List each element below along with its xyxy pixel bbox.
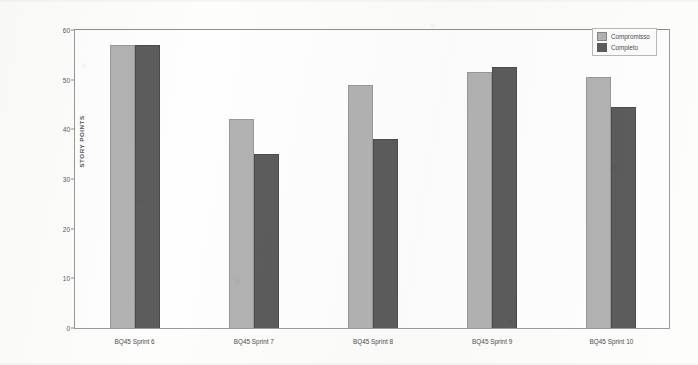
bar-group (75, 30, 194, 328)
x-axis-label: BQ45 Sprint 9 (472, 338, 512, 345)
bar-completed[interactable] (492, 67, 517, 328)
legend-item-committed: Compromisso (597, 32, 650, 41)
bar-committed[interactable] (110, 45, 135, 328)
legend-label-committed: Compromisso (611, 33, 650, 40)
x-axis-label: BQ45 Sprint 10 (590, 338, 634, 345)
bar-completed[interactable] (135, 45, 160, 328)
y-tick-label: 0 (66, 325, 70, 332)
bar-completed[interactable] (611, 107, 636, 328)
y-tick-label: 30 (63, 176, 70, 183)
bar-committed[interactable] (586, 77, 611, 328)
chart-legend: Compromisso Completo (592, 28, 657, 56)
bar-group (313, 30, 432, 328)
y-tick-label: 40 (63, 126, 70, 133)
legend-swatch-completed (597, 43, 607, 52)
legend-label-completed: Completo (611, 44, 638, 51)
bar-group (552, 30, 671, 328)
legend-item-completed: Completo (597, 43, 650, 52)
bar-committed[interactable] (467, 72, 492, 328)
bar-completed[interactable] (254, 154, 279, 328)
bar-committed[interactable] (348, 85, 373, 328)
y-tick-label: 20 (63, 225, 70, 232)
bar-completed[interactable] (373, 139, 398, 328)
legend-swatch-committed (597, 32, 607, 41)
bar-chart-figure: STORY POINTS 0102030405060 BQ45 Sprint 6… (0, 0, 698, 365)
x-axis-label: BQ45 Sprint 6 (115, 338, 155, 345)
y-tick-label: 10 (63, 275, 70, 282)
y-tick-label: 60 (63, 27, 70, 34)
y-tick-label: 50 (63, 76, 70, 83)
plot-area: STORY POINTS 0102030405060 BQ45 Sprint 6… (74, 29, 670, 329)
bar-committed[interactable] (229, 119, 254, 328)
bars-layer (75, 30, 669, 328)
bar-group (194, 30, 313, 328)
bar-group (433, 30, 552, 328)
x-axis-label: BQ45 Sprint 7 (234, 338, 274, 345)
x-axis-label: BQ45 Sprint 8 (353, 338, 393, 345)
